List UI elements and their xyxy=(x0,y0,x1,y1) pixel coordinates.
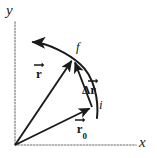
vector-label-r-zero: r 0 xyxy=(77,122,87,139)
vector-label-delta-r: Δr xyxy=(82,83,96,96)
vector-symbol-delta-r: r xyxy=(90,83,96,96)
vector-subscript-zero: 0 xyxy=(83,131,88,141)
point-label-initial: i xyxy=(99,98,103,111)
x-axis-label: x xyxy=(139,135,146,150)
vector-diagram-figure: y x f i r r 0 Δr xyxy=(0,0,157,158)
vector-symbol-r-zero: r xyxy=(77,122,83,135)
vector-r-line xyxy=(15,61,72,145)
point-label-final: f xyxy=(76,40,80,53)
vector-label-r: r xyxy=(36,67,42,80)
y-axis-label: y xyxy=(6,3,13,18)
trajectory-path xyxy=(33,42,97,118)
vector-symbol-r: r xyxy=(36,67,42,80)
delta-symbol: Δ xyxy=(82,82,90,97)
